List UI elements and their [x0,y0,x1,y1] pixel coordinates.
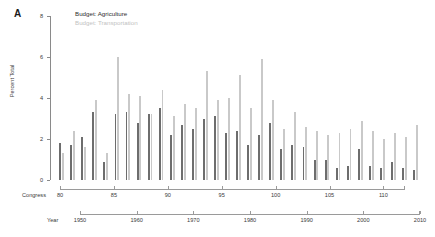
year-tick [307,211,308,214]
bar-agriculture [115,114,117,180]
bar-transportation [217,100,219,180]
bar-transportation [73,131,75,180]
y-axis-tick-label: 6 [29,54,43,60]
y-axis-tick [47,139,51,140]
bar-transportation [394,133,396,180]
bar-transportation [383,139,385,180]
bar-transportation [195,108,197,180]
bar-transportation [62,153,64,180]
congress-tick-label: 110 [373,192,393,198]
bar-transportation [361,121,363,180]
year-axis-name: Year [47,217,58,223]
bar-transportation [239,75,241,180]
bar-agriculture [137,123,139,180]
bar-transportation [372,131,374,180]
bar-transportation [84,147,86,180]
y-axis-label: Percent Total [9,51,15,111]
bar-agriculture [92,112,94,180]
bar-transportation [128,94,130,180]
year-tick-label: 1990 [295,217,319,223]
bar-agriculture [380,168,382,180]
bar-agriculture [170,135,172,180]
year-tick [420,211,421,214]
plot-area [57,16,422,180]
bar-agriculture [314,160,316,181]
bar-agriculture [59,143,61,180]
y-axis-tick-label: 0 [29,177,43,183]
bar-transportation [250,108,252,180]
bar-transportation [350,129,352,180]
bar-agriculture [413,170,415,180]
bar-agriculture [391,162,393,180]
bar-agriculture [192,129,194,180]
bar-transportation [327,135,329,180]
congress-tick-label: 90 [158,192,178,198]
bar-agriculture [236,131,238,180]
bar-transportation [294,112,296,180]
bar-agriculture [203,119,205,181]
bar-transportation [316,131,318,180]
bar-agriculture [247,145,249,180]
bar-transportation [184,104,186,180]
bar-agriculture [225,133,227,180]
bar-agriculture [269,123,271,180]
congress-tick [168,186,169,189]
year-tick-label: 1980 [238,217,262,223]
bar-agriculture [103,162,105,180]
congress-tick-label: 105 [320,192,340,198]
y-axis-tick-label: 8 [29,13,43,19]
congress-tick [60,186,61,189]
bar-agriculture [358,149,360,180]
bar-transportation [173,116,175,180]
bar-agriculture [347,166,349,180]
bar-transportation [117,57,119,180]
year-axis-line [80,214,420,215]
congress-axis-line [60,189,405,190]
y-axis-tick [47,180,51,181]
year-tick-label: 1950 [68,217,92,223]
bar-agriculture [181,125,183,180]
year-tick [80,211,81,214]
congress-axis-name: Congress [22,192,46,198]
bar-transportation [272,100,274,180]
y-axis-tick [47,57,51,58]
bar-agriculture [148,114,150,180]
congress-tick [330,186,331,189]
congress-tick [383,186,384,189]
y-axis-tick-label: 4 [29,95,43,101]
bar-transportation [95,100,97,180]
year-tick-label: 2010 [408,217,432,223]
bar-transportation [139,96,141,180]
congress-tick-label: 85 [104,192,124,198]
bar-agriculture [325,160,327,181]
bar-agriculture [258,135,260,180]
bar-agriculture [214,116,216,180]
bar-transportation [206,71,208,180]
year-tick-label: 1960 [125,217,149,223]
y-axis-tick [47,16,51,17]
congress-tick-label: 80 [50,192,70,198]
congress-tick [114,186,115,189]
y-axis-tick [47,98,51,99]
congress-tick [222,186,223,189]
figure-panel-a: A Percent Total 02468 Budget: Agricultur… [0,0,435,237]
bar-transportation [416,125,418,180]
panel-label: A [14,8,21,19]
bar-transportation [151,114,153,180]
bar-transportation [228,98,230,180]
y-axis-line [50,16,51,180]
congress-tick-label: 100 [266,192,286,198]
bar-agriculture [159,108,161,180]
bar-agriculture [402,168,404,180]
bar-agriculture [70,145,72,180]
year-tick [250,211,251,214]
bar-transportation [405,137,407,180]
bar-transportation [305,127,307,180]
year-tick [193,211,194,214]
bar-agriculture [369,166,371,180]
year-tick-label: 2000 [351,217,375,223]
bar-transportation [283,129,285,180]
bar-agriculture [291,145,293,180]
y-axis-tick-label: 2 [29,136,43,142]
bar-agriculture [280,149,282,180]
